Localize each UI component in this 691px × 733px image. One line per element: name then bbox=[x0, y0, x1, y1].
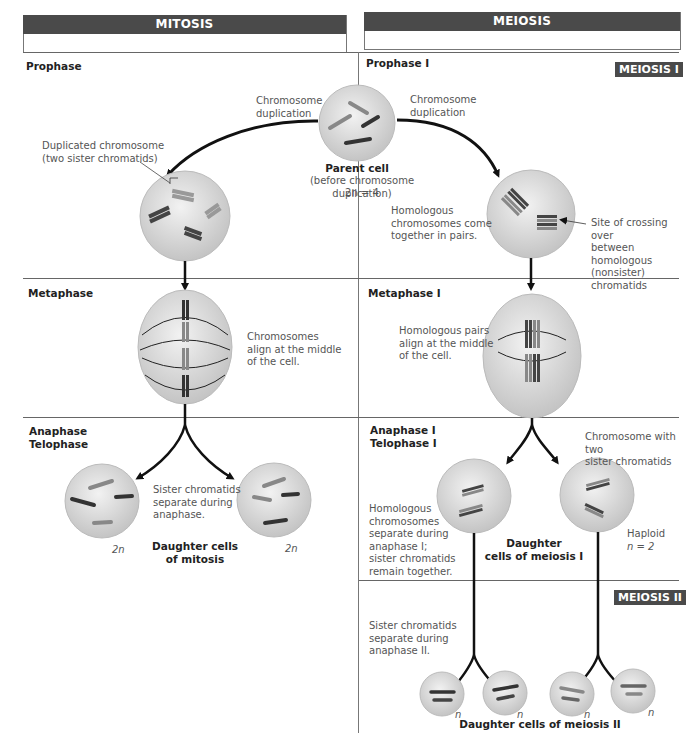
meiosis-i-badge: MEIOSIS I bbox=[615, 62, 683, 77]
mitosis-metaphase-note: Chromosomes align at the middle of the c… bbox=[247, 331, 342, 369]
diagram-graphics bbox=[0, 0, 691, 733]
mitosis-metaphase-label: Metaphase bbox=[28, 287, 93, 300]
two-sister-chromatids-note: Chromosome with two sister chromatids bbox=[585, 431, 691, 469]
mitosis-daughter-cell-right bbox=[237, 463, 311, 537]
telophase-text: Telophase bbox=[29, 438, 88, 451]
haploid-note: Haploid n = 2 bbox=[627, 528, 665, 553]
homologous-pairs-note: Homologous chromosomes come together in … bbox=[391, 205, 492, 243]
mitosis-anaphase-note: Sister chromatids separate during anapha… bbox=[153, 484, 241, 522]
meiosis1-daughter-cell-right bbox=[560, 458, 634, 532]
duplicated-chromosome-note: Duplicated chromosome (two sister chroma… bbox=[42, 140, 164, 165]
mitosis-prophase-cell bbox=[140, 171, 230, 261]
mitosis-anaphase-label: Anaphase Telophase bbox=[29, 425, 88, 451]
meiosis-duplication-note: Chromosome duplication bbox=[410, 94, 476, 119]
parent-cell-title: Parent cell bbox=[307, 162, 407, 175]
meiosis-anaphase-label: Anaphase I Telophase I bbox=[370, 424, 437, 450]
meiosis2-ploidy-4: n bbox=[648, 707, 654, 720]
mitosis-ploidy-left: 2n bbox=[112, 544, 125, 557]
mitosis-duplication-note: Chromosome duplication bbox=[256, 95, 322, 120]
meiosis-prophase-cell bbox=[487, 170, 575, 258]
meiosis-metaphase-cell bbox=[483, 294, 581, 418]
mitosis-metaphase-cell bbox=[138, 290, 232, 404]
meiosis-ii-badge: MEIOSIS II bbox=[614, 590, 686, 605]
telophase-i-text: Telophase I bbox=[370, 437, 437, 450]
crossing-over-note: Site of crossing over between homologous… bbox=[591, 217, 691, 292]
mitosis-prophase-label: Prophase bbox=[26, 60, 82, 73]
mitosis-daughter-label: Daughter cells of mitosis bbox=[150, 540, 240, 566]
meiosis2-daughter-label: Daughter cells of meiosis II bbox=[445, 718, 635, 731]
meiosis-anaphase2-note: Sister chromatids separate during anapha… bbox=[369, 620, 457, 658]
parent-cell-ploidy: 2n = 4 bbox=[332, 187, 392, 200]
meiosis-anaphase1-note: Homologous chromosomes separate during a… bbox=[369, 503, 456, 578]
anaphase-i-text: Anaphase I bbox=[370, 424, 437, 437]
anaphase-text: Anaphase bbox=[29, 425, 88, 438]
mitosis-daughter-cell-left bbox=[65, 464, 139, 538]
meiosis-metaphase-note: Homologous pairs align at the middle of … bbox=[399, 325, 494, 363]
meiosis1-daughter-label: Daughter cells of meiosis I bbox=[484, 537, 584, 563]
mitosis-ploidy-right: 2n bbox=[285, 543, 298, 556]
meiosis-prophase-label: Prophase I bbox=[366, 57, 429, 70]
meiosis-metaphase-label: Metaphase I bbox=[368, 287, 441, 300]
parent-cell bbox=[319, 85, 395, 161]
